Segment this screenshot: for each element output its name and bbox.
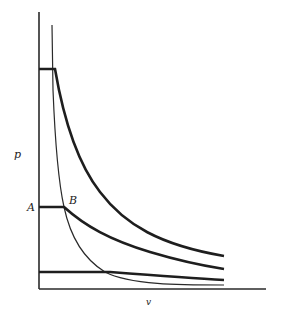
point-b-label: B	[68, 194, 77, 207]
point-a-label: A	[26, 201, 35, 214]
pv-diagram: p v A B	[0, 0, 282, 311]
lower-isotherm	[39, 272, 224, 280]
upper-isotherm	[39, 69, 224, 256]
p-axis-label: p	[14, 148, 21, 161]
v-axis-label: v	[146, 297, 151, 307]
